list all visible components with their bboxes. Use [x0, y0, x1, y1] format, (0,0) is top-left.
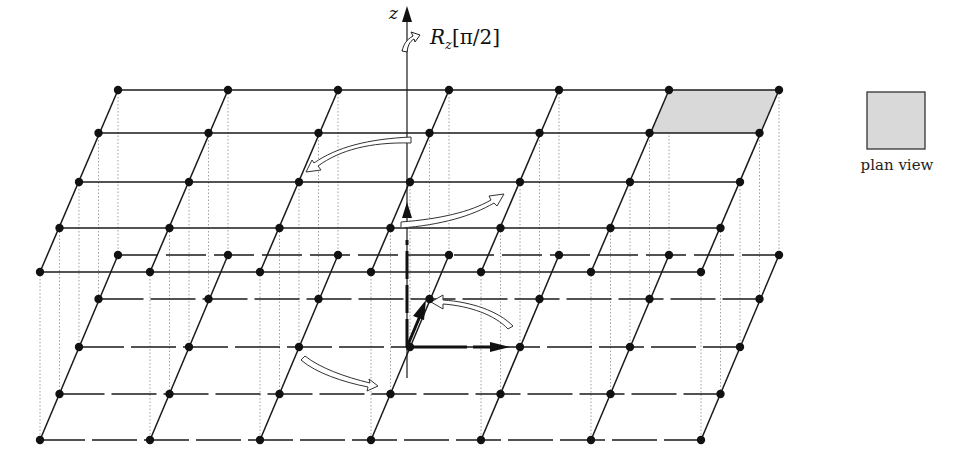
lower-lattice-node: [445, 251, 453, 259]
upper-lattice-node: [165, 224, 173, 232]
upper-lattice-node: [626, 178, 634, 186]
lower-lattice-node: [535, 295, 543, 303]
upper-lattice-node: [555, 86, 563, 94]
lower-lattice-node: [645, 295, 653, 303]
lower-lattice-node: [75, 343, 83, 351]
rotation-label: Rz[π/2]: [429, 25, 500, 52]
upper-lattice-node: [477, 268, 485, 276]
upper-lattice-node: [496, 224, 504, 232]
lower-lattice-node: [587, 436, 595, 444]
plan-view-square: [867, 92, 925, 149]
z-axis-label: z: [388, 3, 399, 23]
upper-lattice-node: [736, 178, 744, 186]
upper-lattice-node: [185, 178, 193, 186]
lower-lattice-node: [665, 251, 673, 259]
lower-lattice-node: [477, 436, 485, 444]
lower-lattice-node: [555, 251, 563, 259]
upper-lattice-node: [256, 268, 264, 276]
lower-lattice-node: [334, 251, 342, 259]
upper-lattice-node: [716, 224, 724, 232]
upper-lattice-node: [36, 268, 44, 276]
lower-left-curved-arrow-icon: [301, 356, 378, 391]
plan-view-inset: [867, 92, 925, 149]
upper-lattice-node: [114, 86, 122, 94]
upper-lattice-node: [425, 129, 433, 137]
lower-lattice-node: [146, 436, 154, 444]
lower-lattice-node: [55, 390, 63, 398]
lower-lattice-node: [114, 251, 122, 259]
rotation-curl-arrow-icon: [402, 32, 420, 52]
lower-lattice-node: [367, 436, 375, 444]
lower-lattice-node: [516, 343, 524, 351]
upper-lattice-node: [665, 86, 673, 94]
lower-lattice-node: [94, 295, 102, 303]
lower-lattice-node: [185, 343, 193, 351]
lower-lattice-node: [386, 390, 394, 398]
upper-lattice-node: [775, 86, 783, 94]
upper-lattice-node: [516, 178, 524, 186]
upper-lattice-node: [445, 86, 453, 94]
upper-lattice-node: [275, 224, 283, 232]
upper-lattice-node: [75, 178, 83, 186]
upper-left-curved-arrow-icon: [306, 137, 411, 172]
upper-lattice-node: [146, 268, 154, 276]
upper-lattice-node: [94, 129, 102, 137]
lower-lattice-node: [606, 390, 614, 398]
lower-lattice-node: [224, 251, 232, 259]
upper-lattice-node: [386, 224, 394, 232]
upper-lattice-node: [224, 86, 232, 94]
upper-lattice-node: [645, 129, 653, 137]
z-axis-arrowhead-icon: [402, 6, 412, 22]
upper-lattice-node: [406, 178, 414, 186]
lower-lattice-node: [755, 295, 763, 303]
lower-lattice-node: [165, 390, 173, 398]
plan-view-label: plan view: [861, 156, 934, 174]
lower-lattice-node: [697, 436, 705, 444]
upper-lattice-node: [535, 129, 543, 137]
lower-lattice-node: [295, 343, 303, 351]
lower-lattice-node: [775, 251, 783, 259]
lower-lattice-node: [626, 343, 634, 351]
lower-lattice-node: [736, 343, 744, 351]
lower-lattice-node: [496, 390, 504, 398]
upper-lattice-node: [55, 224, 63, 232]
upper-lattice-node: [587, 268, 595, 276]
upper-lattice-node: [606, 224, 614, 232]
lower-lattice-node: [256, 436, 264, 444]
upper-lattice-node: [697, 268, 705, 276]
upper-lattice-node: [314, 129, 322, 137]
upper-lattice-node: [334, 86, 342, 94]
lower-lattice-node: [314, 295, 322, 303]
lower-lattice-node: [716, 390, 724, 398]
upper-lattice-node: [295, 178, 303, 186]
lower-lattice-node: [275, 390, 283, 398]
rotation-indicator: [402, 32, 420, 52]
lower-lattice-node: [36, 436, 44, 444]
shaded-unit-cell: [650, 90, 780, 133]
lattice-rotation-diagram: z Rz[π/2] plan view: [0, 0, 980, 470]
upper-lattice-node: [367, 268, 375, 276]
upper-right-curved-arrow-icon: [401, 194, 504, 228]
lower-lattice-node: [425, 295, 433, 303]
basis-y-arrowhead-icon: [413, 300, 426, 320]
lower-lattice-node: [406, 343, 414, 351]
lower-lattice-node: [204, 295, 212, 303]
upper-lattice-node: [755, 129, 763, 137]
upper-lattice-node: [204, 129, 212, 137]
